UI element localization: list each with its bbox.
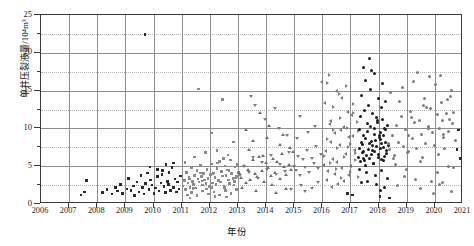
data-point: [442, 133, 445, 136]
data-point: [377, 156, 380, 159]
data-point: [234, 166, 237, 169]
data-point: [106, 188, 109, 191]
data-point: [374, 174, 377, 177]
data-point: [360, 141, 363, 144]
data-point: [380, 169, 383, 172]
data-point: [380, 158, 383, 161]
data-point: [349, 170, 352, 174]
y-axis-minor-tick: [37, 71, 40, 72]
data-point: [357, 129, 360, 133]
data-point: [459, 157, 462, 160]
data-point: [283, 170, 287, 173]
y-axis-tick: [34, 90, 40, 91]
data-point: [178, 188, 181, 191]
data-point: [413, 121, 416, 124]
data-point: [398, 100, 401, 103]
data-point: [292, 165, 296, 168]
data-point: [154, 187, 157, 190]
data-point: [303, 190, 307, 193]
data-point: [190, 166, 193, 169]
data-point: [332, 105, 335, 109]
data-point: [149, 166, 152, 169]
data-point: [291, 150, 295, 153]
data-point: [193, 156, 196, 159]
data-point: [274, 173, 278, 176]
data-point: [431, 131, 434, 134]
data-point: [380, 106, 383, 109]
data-point: [222, 157, 225, 160]
data-point: [368, 57, 371, 60]
data-point: [421, 156, 424, 159]
gridline-vertical-major: [97, 15, 98, 202]
data-point: [329, 140, 332, 144]
data-point: [365, 171, 368, 174]
data-point: [238, 174, 242, 177]
data-point: [251, 158, 255, 161]
data-point: [284, 187, 288, 190]
data-point: [278, 143, 282, 146]
data-point: [358, 128, 361, 131]
data-point: [454, 139, 457, 142]
data-point: [363, 109, 366, 112]
data-point: [263, 118, 267, 121]
data-point: [287, 151, 291, 154]
data-point: [350, 113, 353, 117]
data-point: [391, 134, 394, 137]
scatter-chart: 单井压裂液量/10⁴m³ 051015202520062007200820092…: [0, 0, 474, 246]
data-point: [441, 119, 444, 122]
data-point: [253, 104, 257, 107]
data-point: [363, 159, 366, 162]
data-point: [214, 195, 217, 198]
data-point: [236, 163, 239, 166]
data-point: [267, 124, 271, 127]
data-point: [445, 112, 448, 115]
data-point: [171, 166, 174, 169]
data-point: [234, 177, 237, 180]
data-point: [376, 121, 379, 124]
data-point: [280, 152, 284, 155]
data-point: [298, 174, 302, 177]
data-point: [362, 66, 365, 69]
data-point: [333, 131, 336, 135]
data-point: [249, 95, 253, 98]
data-point: [339, 116, 342, 120]
data-point: [288, 146, 292, 149]
data-point: [387, 144, 390, 147]
data-point: [193, 174, 196, 177]
data-point: [199, 164, 202, 167]
data-point: [197, 88, 200, 91]
data-point: [132, 185, 135, 188]
data-point: [253, 172, 257, 175]
data-point: [373, 133, 376, 136]
data-point: [220, 170, 223, 173]
data-point: [339, 128, 342, 132]
data-point: [215, 183, 218, 186]
data-point: [365, 154, 368, 157]
data-point: [349, 142, 352, 146]
data-point: [385, 149, 388, 152]
gridline-vertical-major: [435, 15, 436, 202]
data-point: [289, 168, 293, 171]
gridline-horizontal-minor: [41, 72, 461, 73]
data-point: [370, 140, 373, 143]
data-point: [372, 162, 375, 165]
data-point: [289, 188, 293, 191]
data-point: [423, 97, 426, 100]
data-point: [320, 80, 323, 84]
data-point: [392, 157, 395, 160]
data-point: [375, 145, 378, 148]
data-point: [187, 182, 190, 185]
data-point: [274, 191, 278, 194]
data-point: [189, 197, 192, 200]
data-point: [237, 171, 240, 174]
y-axis-minor-tick: [37, 184, 40, 185]
gridline-vertical-major: [238, 15, 239, 202]
data-point: [244, 181, 248, 184]
data-point: [374, 139, 377, 142]
data-point: [229, 159, 232, 162]
data-point: [224, 165, 227, 168]
data-point: [140, 174, 143, 177]
data-point: [284, 173, 288, 176]
data-point: [370, 153, 373, 156]
data-point: [406, 151, 409, 154]
